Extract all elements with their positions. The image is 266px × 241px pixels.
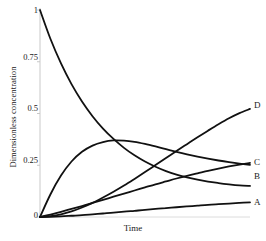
kinetics-chart: 1 0.75 0.5 0.25 0 Dimensionless concentr…	[0, 0, 266, 241]
curve-group	[40, 10, 250, 217]
y-tick-labels: 1 0.75 0.5 0.25 0	[0, 0, 38, 241]
curve-label-b: B	[254, 172, 260, 181]
curve-d	[40, 10, 250, 186]
y-tick-label-1: 1	[4, 6, 38, 15]
y-tick-label-0: 0	[4, 211, 38, 220]
y-axis-title: Dimensionless concentration	[8, 42, 18, 192]
curve-label-a: A	[254, 198, 261, 207]
curve-label-d: D	[254, 101, 261, 110]
curve-label-c: C	[254, 158, 260, 167]
curve-c	[40, 140, 250, 217]
plot-area	[0, 0, 266, 241]
x-axis-title: Time	[0, 223, 266, 233]
curve-d-rising	[40, 109, 250, 217]
